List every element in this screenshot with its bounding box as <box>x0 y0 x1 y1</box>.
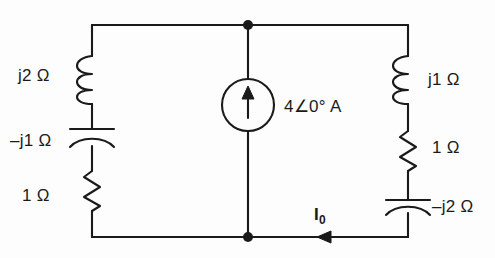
label-right-inductor: j1 Ω <box>428 70 460 90</box>
label-left-inductor: j2 Ω <box>18 66 50 86</box>
circuit-diagram: j2 Ω –j1 Ω 1 Ω j1 Ω 1 Ω –j2 Ω 4∠0° A I0 <box>0 0 495 258</box>
current-direction-arrowhead-left <box>317 231 331 243</box>
circuit-schematic-svg <box>0 0 495 258</box>
label-right-resistor: 1 Ω <box>432 138 460 158</box>
current-source-arrowhead-up <box>242 86 254 99</box>
resistor-symbol-right <box>400 131 416 171</box>
node-dot-top <box>243 20 253 30</box>
label-left-capacitor: –j1 Ω <box>10 131 52 151</box>
current-subscript: 0 <box>319 213 326 227</box>
label-right-capacitor: –j2 Ω <box>432 197 474 217</box>
resistor-symbol-left <box>84 171 100 211</box>
label-left-resistor: 1 Ω <box>22 186 50 206</box>
inductor-symbol-left <box>77 56 92 104</box>
label-current-i0: I0 <box>314 205 326 227</box>
node-dot-bottom <box>243 232 253 242</box>
label-current-source: 4∠0° A <box>284 96 342 117</box>
inductor-symbol-right <box>393 56 408 104</box>
